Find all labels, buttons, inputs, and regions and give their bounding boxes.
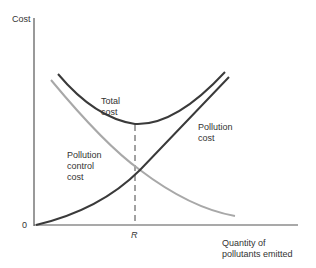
y-axis-label: Cost <box>12 14 31 25</box>
origin-label: 0 <box>22 220 27 231</box>
pollution-control-cost-label: Pollution control cost <box>67 150 102 183</box>
pollution-cost-curve <box>36 77 229 225</box>
x-axis-label: Quantity of pollutants emitted <box>222 238 293 260</box>
pollution-cost-label: Pollution cost <box>198 122 233 144</box>
chart <box>0 0 316 268</box>
r-tick-label: R <box>131 230 138 241</box>
total-cost-label: Total cost <box>101 96 120 118</box>
